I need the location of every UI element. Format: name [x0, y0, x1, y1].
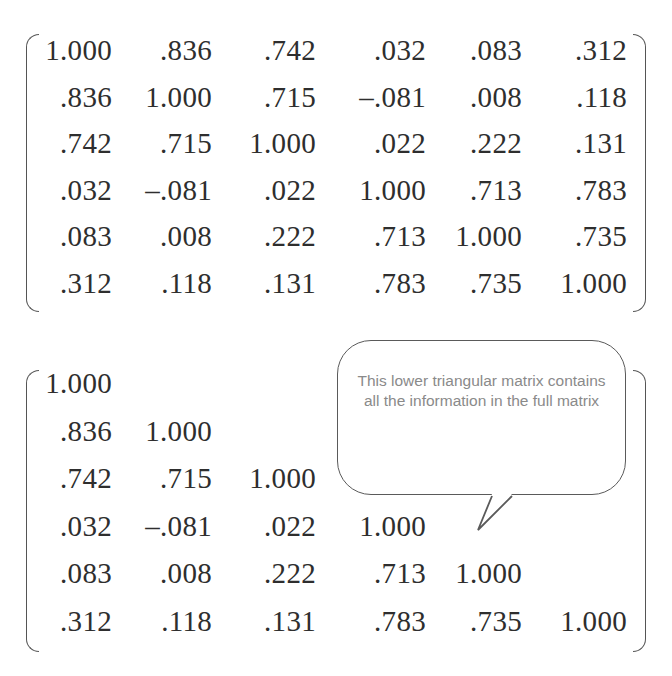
matrix-cell: .083	[12, 556, 112, 590]
matrix-cell: 1.000	[112, 414, 212, 448]
matrix-cell: .713	[326, 219, 426, 253]
matrix-cell: 1.000	[422, 556, 522, 590]
matrix-cell: .713	[326, 556, 426, 590]
matrix-cell: 1.000	[12, 33, 112, 67]
matrix-cell: .735	[422, 604, 522, 638]
matrix-cell: .222	[422, 126, 522, 160]
matrix-cell: 1.000	[216, 126, 316, 160]
matrix-cell: 1.000	[527, 604, 627, 638]
right-bracket	[633, 370, 646, 652]
matrix-cell: .083	[422, 33, 522, 67]
matrix-cell: .312	[12, 604, 112, 638]
matrix-cell: 1.000	[422, 219, 522, 253]
matrix-cell: 1.000	[326, 509, 426, 543]
matrix-cell: .312	[527, 33, 627, 67]
matrix-cell: .008	[112, 556, 212, 590]
matrix-cell: .836	[12, 414, 112, 448]
matrix-cell: .735	[422, 266, 522, 300]
matrix-cell: –.081	[112, 509, 212, 543]
matrix-cell: .742	[216, 33, 316, 67]
matrix-cell: .715	[112, 461, 212, 495]
matrix-cell: .715	[112, 126, 212, 160]
matrix-cell: –.081	[112, 173, 212, 207]
matrix-cell: 1.000	[216, 461, 316, 495]
matrix-cell: .131	[216, 604, 316, 638]
matrix-cell: .131	[216, 266, 316, 300]
matrix-cell: .742	[12, 461, 112, 495]
matrix-cell: .032	[326, 33, 426, 67]
matrix-cell: .222	[216, 219, 316, 253]
matrix-cell: .783	[326, 266, 426, 300]
matrix-cell: .118	[527, 80, 627, 114]
matrix-cell: .713	[422, 173, 522, 207]
matrix-cell: 1.000	[527, 266, 627, 300]
matrix-cell: .783	[527, 173, 627, 207]
matrix-cell: 1.000	[326, 173, 426, 207]
matrix-cell: .312	[12, 266, 112, 300]
matrix-cell: –.081	[326, 80, 426, 114]
right-bracket	[633, 34, 646, 312]
matrix-cell: .118	[112, 604, 212, 638]
matrix-cell: .715	[216, 80, 316, 114]
matrix-cell: .083	[12, 219, 112, 253]
full-correlation-matrix: 1.000.836.742.032.083.312.8361.000.715–.…	[0, 0, 672, 320]
matrix-cell: .836	[112, 33, 212, 67]
matrix-cell: .008	[112, 219, 212, 253]
matrix-cell: .783	[326, 604, 426, 638]
matrix-cell: .022	[326, 126, 426, 160]
matrix-cell: .836	[12, 80, 112, 114]
matrix-cell: .118	[112, 266, 212, 300]
matrix-cell: .735	[527, 219, 627, 253]
matrix-cell: .008	[422, 80, 522, 114]
callout-bubble: This lower triangular matrix contains al…	[337, 340, 626, 495]
matrix-cell: 1.000	[112, 80, 212, 114]
matrix-cell: .032	[12, 173, 112, 207]
matrix-cell: .131	[527, 126, 627, 160]
matrix-cell: .222	[216, 556, 316, 590]
matrix-cell: .022	[216, 173, 316, 207]
callout-tail-icon	[470, 492, 520, 534]
matrix-cell: 1.000	[12, 366, 112, 400]
matrix-cell: .032	[12, 509, 112, 543]
matrix-cell: .022	[216, 509, 316, 543]
matrix-cell: .742	[12, 126, 112, 160]
callout-text: This lower triangular matrix contains al…	[352, 371, 611, 411]
